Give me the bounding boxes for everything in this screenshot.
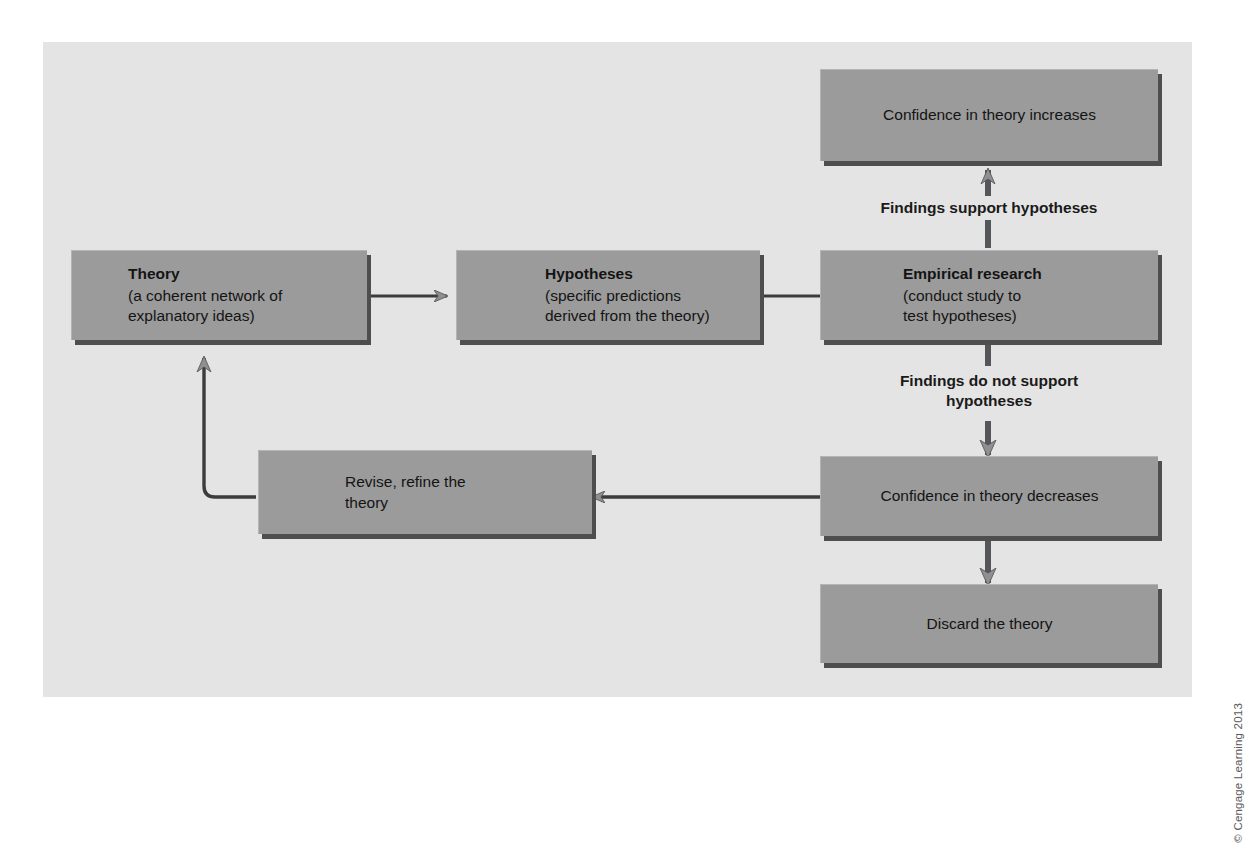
node-confidence-decreases[interactable]: Confidence in theory decreases: [820, 456, 1158, 536]
node-empirical-research-line2: test hypotheses): [903, 306, 1042, 326]
edge-label-not-support-line2: hypotheses: [946, 392, 1032, 409]
node-revise-theory[interactable]: Revise, refine the theory: [258, 450, 592, 534]
node-empirical-research-title: Empirical research: [903, 264, 1042, 284]
edge-label-findings-not-support: Findings do not support hypotheses: [818, 371, 1160, 411]
node-hypotheses-line2: derived from the theory): [545, 306, 710, 326]
node-confidence-decreases-label: Confidence in theory decreases: [881, 487, 1099, 504]
node-theory[interactable]: Theory (a coherent network of explanator…: [71, 250, 367, 340]
node-hypotheses-line1: (specific predictions: [545, 286, 710, 306]
node-theory-line1: (a coherent network of: [128, 286, 282, 306]
node-discard-theory[interactable]: Discard the theory: [820, 584, 1158, 663]
node-empirical-research-line1: (conduct study to: [903, 286, 1042, 306]
node-theory-line2: explanatory ideas): [128, 306, 282, 326]
node-hypotheses-title: Hypotheses: [545, 264, 710, 284]
node-theory-title: Theory: [128, 264, 282, 284]
edge-label-findings-support: Findings support hypotheses: [818, 198, 1160, 218]
node-discard-theory-label: Discard the theory: [927, 615, 1053, 632]
node-revise-theory-line1: Revise, refine the: [345, 472, 466, 492]
node-confidence-increases-label: Confidence in theory increases: [883, 106, 1096, 123]
node-hypotheses[interactable]: Hypotheses (specific predictions derived…: [456, 250, 760, 340]
copyright-credit: © Cengage Learning 2013: [1232, 703, 1244, 843]
edge-label-not-support-line1: Findings do not support: [900, 372, 1078, 389]
node-confidence-increases[interactable]: Confidence in theory increases: [820, 69, 1158, 161]
node-revise-theory-line2: theory: [345, 493, 466, 513]
node-empirical-research[interactable]: Empirical research (conduct study to tes…: [820, 250, 1158, 340]
